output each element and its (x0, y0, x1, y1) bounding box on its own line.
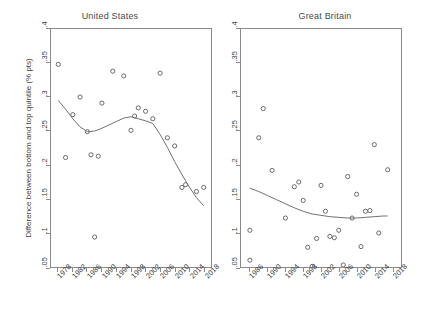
scatter-point (306, 245, 310, 249)
scatter-point (292, 185, 296, 189)
scatter-point (129, 128, 133, 132)
scatter-point (136, 106, 140, 110)
y-tick-label: .4 (230, 27, 239, 28)
y-tick-label: .25 (40, 129, 49, 130)
y-tick-label: .1 (40, 232, 49, 233)
scatter-point (354, 192, 358, 196)
y-tick-mark (236, 199, 240, 200)
y-tick-label: .3 (230, 95, 239, 96)
scatter-point (328, 234, 332, 238)
figure-root: United States Difference between bottom … (0, 0, 435, 313)
scatter-point (363, 209, 367, 213)
y-tick-label: .4 (40, 27, 49, 28)
panel-title-great-britain: Great Britain (215, 11, 435, 21)
scatter-point (100, 101, 104, 105)
scatter-point (194, 189, 198, 193)
scatter-point (143, 109, 147, 113)
scatter-point (151, 117, 155, 121)
scatter-point (202, 185, 206, 189)
panel-title-united-states: United States (0, 11, 220, 21)
scatter-point (323, 209, 327, 213)
y-tick-mark (236, 62, 240, 63)
plot-canvas-united-states (51, 29, 211, 267)
scatter-point (261, 106, 265, 110)
scatter-point (89, 153, 93, 157)
y-tick-label: .2 (230, 164, 239, 165)
scatter-point (165, 136, 169, 140)
scatter-point (297, 180, 301, 184)
scatter-point (359, 245, 363, 249)
scatter-point (248, 258, 252, 262)
panel-united-states: United States Difference between bottom … (0, 0, 220, 313)
scatter-point (173, 144, 177, 148)
panel-great-britain: Great Britain .4.35.3.25.2.15.1.05198619… (215, 0, 435, 313)
scatter-point (96, 154, 100, 158)
scatter-point (93, 235, 97, 239)
plot-area-great-britain (240, 28, 402, 268)
y-tick-mark (236, 28, 240, 29)
y-tick-label: .25 (230, 129, 239, 130)
scatter-point (270, 168, 274, 172)
scatter-point (377, 231, 381, 235)
scatter-point (248, 228, 252, 232)
scatter-point (314, 236, 318, 240)
scatter-point (78, 95, 82, 99)
scatter-point (158, 71, 162, 75)
y-tick-mark (236, 268, 240, 269)
scatter-point (337, 228, 341, 232)
y-tick-label: .05 (230, 267, 239, 268)
scatter-point (63, 155, 67, 159)
y-axis-label: Difference between bottom and top quinti… (24, 28, 33, 268)
scatter-point (122, 74, 126, 78)
y-tick-label: .05 (40, 267, 49, 268)
scatter-point (319, 183, 323, 187)
y-tick-label: .2 (40, 164, 49, 165)
scatter-point (56, 62, 60, 66)
scatter-point (368, 208, 372, 212)
plot-area-united-states (50, 28, 212, 268)
scatter-point (386, 168, 390, 172)
fit-line (250, 188, 388, 218)
fit-line (58, 100, 203, 205)
scatter-point (111, 69, 115, 73)
scatter-point (372, 143, 376, 147)
scatter-point (257, 136, 261, 140)
y-tick-mark (46, 28, 50, 29)
y-tick-label: .3 (40, 95, 49, 96)
scatter-point (346, 174, 350, 178)
y-tick-mark (46, 62, 50, 63)
y-tick-label: .1 (230, 232, 239, 233)
y-tick-mark (236, 165, 240, 166)
scatter-point (332, 236, 336, 240)
plot-canvas-great-britain (241, 29, 401, 267)
y-tick-mark (46, 268, 50, 269)
y-tick-mark (46, 165, 50, 166)
scatter-point (301, 198, 305, 202)
y-tick-mark (46, 199, 50, 200)
scatter-point (283, 216, 287, 220)
